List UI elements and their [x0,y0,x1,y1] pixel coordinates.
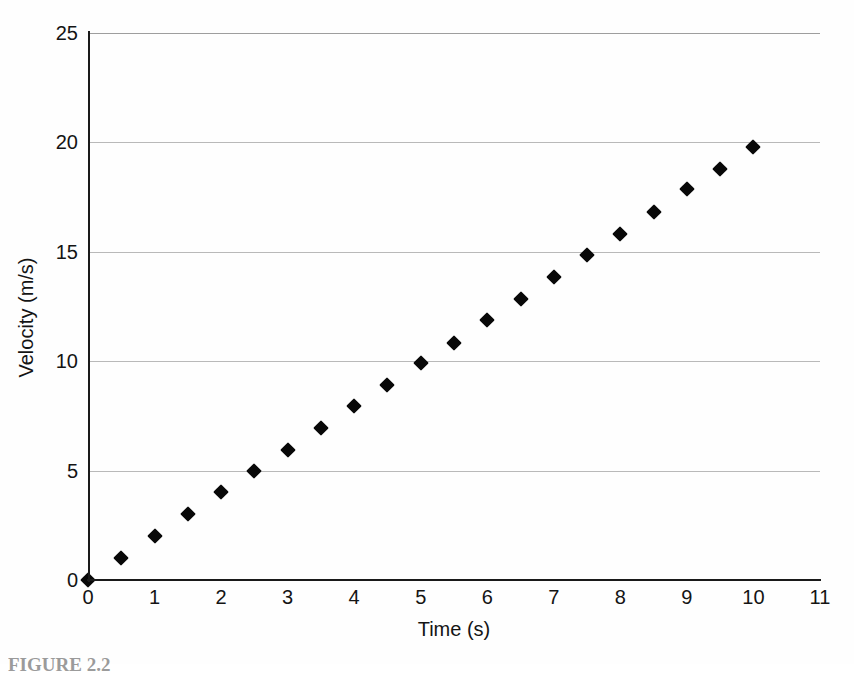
data-point [646,205,662,221]
data-point [712,161,728,177]
gridline-y-10 [88,361,820,362]
y-tick-label-10: 10 [56,351,78,371]
x-tick-label-10: 10 [742,587,764,607]
x-tick-label-11: 11 [810,587,831,607]
x-tick-label-8: 8 [615,587,626,607]
gridline-y-20 [88,142,820,143]
data-point [113,550,129,566]
y-tick-label-5: 5 [67,461,78,481]
data-point [546,269,562,285]
data-point [180,507,196,523]
data-point [446,335,462,351]
data-point [346,398,362,414]
data-point [679,182,695,198]
x-axis-line [87,579,821,581]
x-tick-label-3: 3 [282,587,293,607]
x-tick-label-1: 1 [149,587,160,607]
y-tick-label-15: 15 [56,242,78,262]
x-tick-label-7: 7 [548,587,559,607]
gridline-y-15 [88,252,820,253]
x-tick-label-5: 5 [415,587,426,607]
data-point [579,247,595,263]
plot-area [88,33,820,580]
x-tick-label-0: 0 [82,587,93,607]
y-tick-label-20: 20 [56,132,78,152]
data-point [479,312,495,328]
data-point [213,485,229,501]
data-point [247,463,263,479]
gridline-y-25 [88,33,820,34]
x-axis-title: Time (s) [88,618,820,641]
y-tick-label-0: 0 [67,570,78,590]
gridline-y-5 [88,471,820,472]
data-point [746,139,762,155]
data-point [613,227,629,243]
y-axis-title: Velocity (m/s) [15,208,38,428]
figure-caption: FIGURE 2.2 [8,654,110,675]
data-point [313,420,329,436]
y-axis-tick-labels: 0510152025 [0,0,78,664]
x-tick-label-9: 9 [681,587,692,607]
x-tick-label-2: 2 [216,587,227,607]
data-point [513,291,529,307]
data-point [380,377,396,393]
data-point [413,356,429,372]
x-tick-label-6: 6 [482,587,493,607]
data-point [280,442,296,458]
y-tick-label-25: 25 [56,23,78,43]
x-tick-label-4: 4 [349,587,360,607]
y-axis-line [88,31,90,582]
data-point [147,528,163,544]
